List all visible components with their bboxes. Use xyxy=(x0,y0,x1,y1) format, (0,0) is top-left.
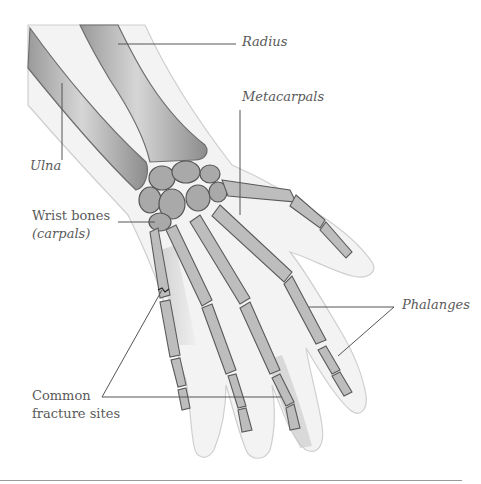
label-ulna: Ulna xyxy=(30,158,61,174)
label-metacarpals: Metacarpals xyxy=(242,89,324,105)
label-fracture-line2: fracture sites xyxy=(32,406,120,422)
label-phalanges: Phalanges xyxy=(402,297,470,313)
hand-bones-diagram: Radius Ulna Metacarpals Wrist bones (car… xyxy=(0,0,481,484)
bottom-divider xyxy=(0,480,462,481)
label-wrist-bones: Wrist bones xyxy=(32,208,110,224)
label-radius: Radius xyxy=(242,34,287,50)
label-fracture-line1: Common xyxy=(32,388,91,404)
label-carpals: (carpals) xyxy=(32,226,90,242)
